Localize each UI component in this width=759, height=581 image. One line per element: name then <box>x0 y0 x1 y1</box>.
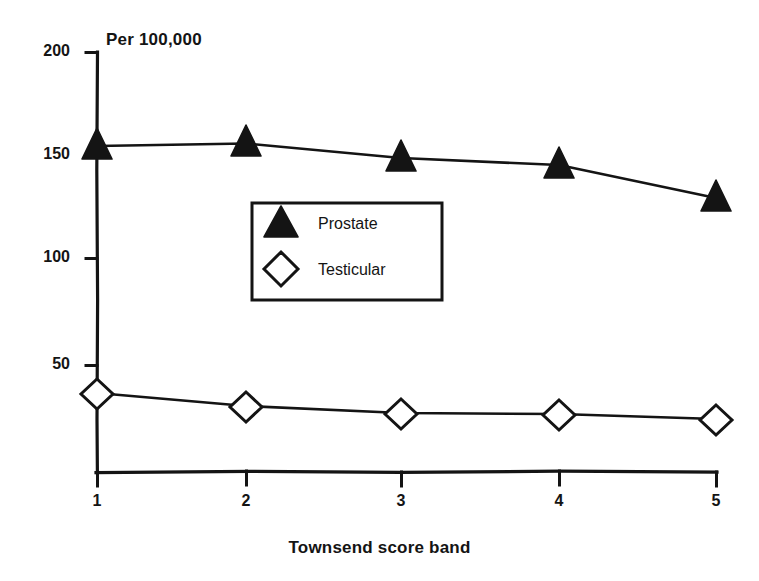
y-axis-ticks <box>86 53 97 366</box>
data-point-testicular-4 <box>543 400 575 430</box>
series-markers-prostate <box>82 125 731 211</box>
chart-figure: Per 100,000 200 150 100 50 1 2 3 4 5 Tow… <box>0 0 759 581</box>
data-point-prostate-3 <box>386 140 416 171</box>
data-point-testicular-2 <box>230 392 262 422</box>
filled-triangle-icon <box>264 206 298 237</box>
open-diamond-icon <box>264 252 298 286</box>
data-point-prostate-1 <box>82 128 112 159</box>
chart-canvas <box>0 0 759 581</box>
x-axis-line <box>96 471 717 472</box>
data-point-testicular-5 <box>700 405 732 435</box>
data-point-prostate-2 <box>231 125 261 156</box>
data-point-testicular-1 <box>81 379 113 409</box>
data-point-testicular-3 <box>385 399 417 429</box>
series-markers-testicular <box>81 379 732 435</box>
data-point-prostate-4 <box>544 147 574 178</box>
